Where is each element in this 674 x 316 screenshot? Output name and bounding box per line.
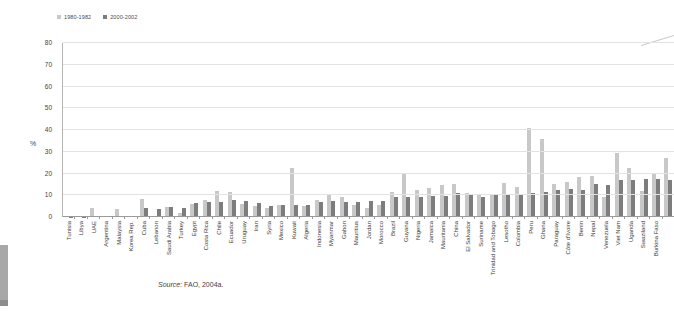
bar [381, 201, 385, 217]
x-axis-tick [162, 217, 163, 219]
x-axis-tick [649, 217, 650, 219]
x-tick-label: Uganda [628, 221, 634, 242]
x-tick-label: Ghana [540, 221, 546, 239]
bar-group [63, 43, 75, 217]
x-axis-tick [374, 217, 375, 219]
bar-group [562, 43, 574, 217]
y-tick-label: 70 [36, 61, 52, 69]
x-tick-label: Mexico [278, 221, 284, 240]
bar-group [512, 43, 524, 217]
x-axis-tick [424, 217, 425, 219]
bar-group [225, 43, 237, 217]
x-axis-tick [337, 217, 338, 219]
x-tick-label: Tunisia [66, 221, 72, 240]
x-axis-tick [524, 217, 525, 219]
bar [656, 179, 660, 217]
bar-group [75, 43, 87, 217]
x-tick-label: Venezuela [603, 221, 609, 249]
bar [369, 201, 373, 217]
x-tick-label: Myanmar [328, 221, 334, 246]
bar-group [113, 43, 125, 217]
x-tick-label: Lesotho [503, 221, 509, 242]
legend-swatch [103, 15, 107, 19]
x-axis-tick [387, 217, 388, 219]
x-tick-label: Benin [578, 221, 584, 236]
bar-group [313, 43, 325, 217]
legend-swatch [57, 15, 61, 19]
gridline [63, 216, 674, 217]
bar-group [188, 43, 200, 217]
bar [469, 195, 473, 217]
x-axis-tick [324, 217, 325, 219]
x-tick-label: Malaysia [116, 221, 122, 245]
bar [531, 193, 535, 217]
bar-group [400, 43, 412, 217]
x-axis-tick [124, 217, 125, 219]
bar [232, 200, 236, 217]
x-tick-label: Ecuador [228, 221, 234, 243]
y-tick-label: 80 [36, 39, 52, 47]
x-tick-label: Paraguay [553, 221, 559, 247]
bar-group [450, 43, 462, 217]
bar-group [550, 43, 562, 217]
x-axis-tick [174, 217, 175, 219]
bar [569, 189, 573, 217]
gridline [63, 107, 674, 108]
legend-item: 2000-2002 [103, 14, 137, 20]
x-axis-tick [87, 217, 88, 219]
x-tick-label: Algeria [303, 221, 309, 240]
bar [419, 197, 423, 217]
chart-legend: 1980-1982 2000-2002 [57, 14, 137, 20]
bar-group [325, 43, 337, 217]
x-tick-label: Burkina Faso [653, 221, 659, 256]
x-axis-tick [362, 217, 363, 219]
x-tick-label: UAE [91, 221, 97, 233]
bar [456, 193, 460, 217]
bar-group [238, 43, 250, 217]
bar-group [475, 43, 487, 217]
x-axis-tick [612, 217, 613, 219]
gridline [63, 194, 674, 195]
x-axis-tick [462, 217, 463, 219]
bar-group [88, 43, 100, 217]
x-tick-label: Cuba [141, 221, 147, 235]
y-tick-label: 40 [36, 126, 52, 134]
bar [594, 184, 598, 217]
x-axis-tick [537, 217, 538, 219]
gridline [63, 173, 674, 174]
bar-group [300, 43, 312, 217]
x-tick-label: Morocco [378, 221, 384, 244]
bar [606, 185, 610, 217]
y-tick-label: 30 [36, 148, 52, 156]
x-axis-tick [624, 217, 625, 219]
legend-label: 1980-1982 [64, 14, 91, 20]
x-axis-tick [487, 217, 488, 219]
bar [431, 196, 435, 217]
x-axis-tick [637, 217, 638, 219]
x-axis-tick [449, 217, 450, 219]
bar-group [250, 43, 262, 217]
bar-group [375, 43, 387, 217]
bar [544, 192, 548, 217]
bar-group [438, 43, 450, 217]
y-axis-title: % [30, 140, 36, 147]
bar-group [125, 43, 137, 217]
bar [394, 197, 398, 217]
bar-group [275, 43, 287, 217]
bar [331, 201, 335, 217]
x-axis-tick [137, 217, 138, 219]
bar-group [625, 43, 637, 217]
x-tick-label: Mauritius [353, 221, 359, 245]
x-axis-tick [99, 217, 100, 219]
bar [519, 194, 523, 217]
x-axis-tick [274, 217, 275, 219]
x-tick-label: Nepal [590, 221, 596, 237]
x-tick-label: Peru [528, 221, 534, 234]
x-axis-tick [112, 217, 113, 219]
bar-group [213, 43, 225, 217]
bar-group [388, 43, 400, 217]
bar [244, 201, 248, 217]
scanned-page: 1980-1982 2000-2002 % 80706050403020100 … [0, 0, 674, 316]
bar-group [338, 43, 350, 217]
bar-group [575, 43, 587, 217]
